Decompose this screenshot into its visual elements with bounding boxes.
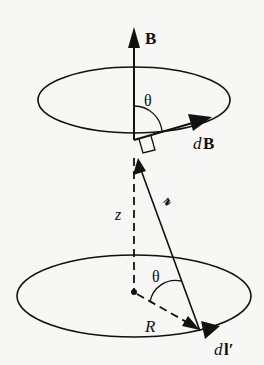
radius-label: R (144, 317, 156, 336)
bottom-theta-label: θ (152, 268, 160, 285)
dl-label-d: d (214, 340, 223, 359)
top-theta-label: θ (144, 92, 152, 109)
db-label-d: d (193, 134, 202, 153)
loop-center-dot (131, 289, 137, 295)
dl-label-l: l′ (224, 340, 234, 359)
z-label: z (114, 206, 122, 223)
db-arrowhead-icon (188, 114, 212, 131)
r-arrowhead-icon (133, 158, 146, 175)
r-label: 𝓇 (163, 190, 171, 209)
dl-arrowhead-icon (201, 321, 220, 339)
db-label-b: B (203, 134, 214, 153)
b-label: B (145, 29, 156, 48)
r-vector (141, 170, 200, 331)
top-theta-arc (134, 106, 162, 131)
db-vector (134, 122, 196, 140)
b-arrowhead-icon (128, 27, 140, 48)
loop-field-diagram: B θ d B z 𝓇 R θ d l′ (0, 0, 264, 365)
